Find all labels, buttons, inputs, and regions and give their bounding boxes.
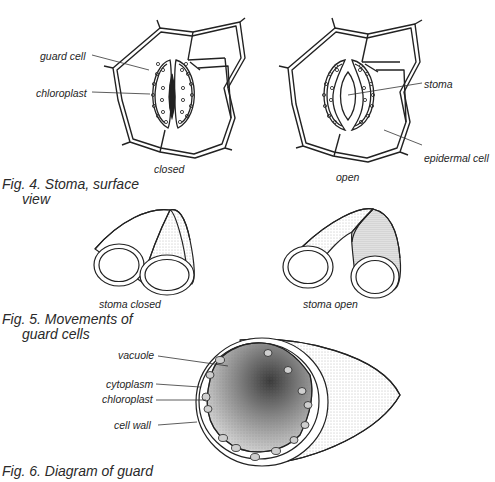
sublabel-open: open [336,171,359,183]
label-stoma-closed: stoma closed [99,298,161,310]
diagram-canvas [0,0,495,482]
label-cell-wall: cell wall [114,419,151,431]
fig5-open-guard-cells [283,209,401,298]
caption-fig4: Fig. 4. Stoma, surface view [2,177,139,207]
label-epidermal-cell: epidermal cell [424,152,489,164]
label-chloroplast-fig6: chloroplast [102,393,153,405]
fig5-closed-guard-cells [94,210,194,295]
fig4-open-epidermis [279,18,422,162]
caption-fig5-line1: Fig. 5. Movements of [2,311,133,327]
caption-fig6-line1: Fig. 6. Diagram of guard [2,463,153,479]
caption-fig6: Fig. 6. Diagram of guard [2,464,153,479]
fig4-open-leader-lines [348,83,422,145]
caption-fig4-line2: view [2,192,139,207]
label-stoma: stoma [424,78,453,90]
caption-fig5-line2: guard cells [2,327,133,342]
label-vacuole: vacuole [118,349,154,361]
fig6-guard-cell [196,338,400,466]
label-stoma-open: stoma open [303,298,358,310]
label-chloroplast-fig4: chloroplast [36,87,87,99]
label-guard-cell: guard cell [40,50,86,62]
caption-fig5: Fig. 5. Movements of guard cells [2,312,133,342]
label-cytoplasm: cytoplasm [106,378,153,390]
fig4-closed-guard-cells [153,60,195,128]
sublabel-closed: closed [154,163,184,175]
caption-fig4-line1: Fig. 4. Stoma, surface [2,176,139,192]
